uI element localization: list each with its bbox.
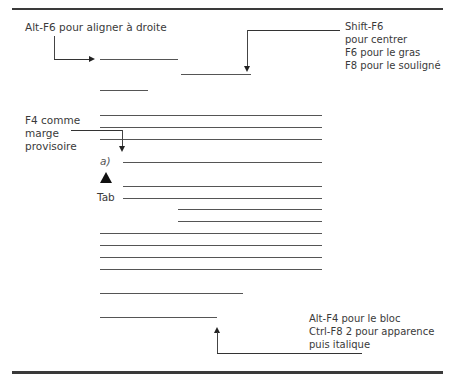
center-annotation-3: F6 pour le gras bbox=[345, 46, 420, 59]
text-line bbox=[178, 209, 322, 210]
align-right-annotation: Alt-F6 pour aligner à droite bbox=[25, 21, 167, 34]
text-line bbox=[100, 59, 178, 60]
text-line bbox=[181, 74, 251, 75]
text-line bbox=[100, 139, 322, 140]
block-annotation-3: puis italique bbox=[309, 338, 370, 351]
arrow-down-icon bbox=[119, 146, 125, 152]
text-line bbox=[178, 221, 322, 222]
top-rule bbox=[12, 8, 443, 10]
margin-connector-h bbox=[71, 130, 123, 131]
text-line bbox=[100, 257, 322, 258]
text-line bbox=[100, 317, 217, 318]
text-line bbox=[100, 245, 322, 246]
block-annotation-2: Ctrl-F8 2 pour apparence bbox=[309, 325, 434, 338]
arrow-down-icon bbox=[244, 66, 250, 72]
margin-connector-v bbox=[122, 130, 123, 146]
block-connector-h bbox=[217, 353, 362, 354]
align-right-connector-h bbox=[54, 59, 92, 60]
list-marker: a) bbox=[100, 155, 111, 168]
arrow-right-icon bbox=[89, 56, 95, 62]
margin-annotation-1: F4 comme bbox=[25, 114, 80, 127]
text-line bbox=[100, 293, 243, 294]
center-connector-v bbox=[247, 30, 248, 66]
center-annotation-1: Shift-F6 bbox=[345, 20, 383, 33]
up-triangle-icon bbox=[100, 172, 112, 183]
center-annotation-2: pour centrer bbox=[345, 33, 407, 46]
text-line bbox=[123, 198, 322, 199]
text-line bbox=[100, 127, 322, 128]
block-annotation-1: Alt-F4 pour le bloc bbox=[309, 312, 400, 325]
margin-annotation-3: provisoire bbox=[25, 140, 77, 153]
text-line bbox=[123, 186, 322, 187]
text-line bbox=[123, 162, 322, 163]
center-connector-h bbox=[247, 30, 340, 31]
bottom-rule bbox=[12, 371, 443, 374]
text-line bbox=[100, 115, 322, 116]
margin-annotation-2: marge bbox=[25, 127, 59, 140]
center-annotation-4: F8 pour le souligné bbox=[345, 59, 441, 72]
text-line bbox=[100, 269, 322, 270]
text-line bbox=[100, 233, 322, 234]
align-right-connector bbox=[54, 36, 55, 60]
text-line bbox=[100, 90, 148, 91]
tab-label: Tab bbox=[97, 191, 115, 204]
block-connector-v bbox=[217, 332, 218, 354]
